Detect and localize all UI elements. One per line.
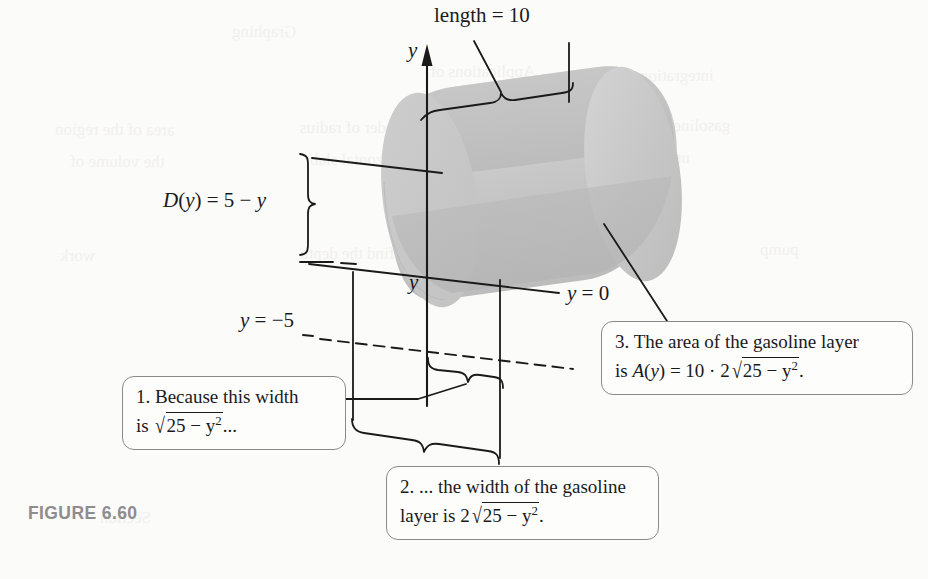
callout-1[interactable]: 1. Because this width is √25 − y2...: [122, 376, 346, 450]
y-axis-label-text: y: [408, 38, 417, 62]
callout-3-exponent: 2: [791, 358, 797, 373]
y-zero-rhs: = 0: [582, 281, 610, 305]
callout-3-line2-lead-wrap: is A(y) = 10 · 2: [615, 360, 730, 381]
slab-y-label: y: [409, 272, 418, 293]
callout-3-radicand-text: 25 − y: [743, 360, 792, 381]
y-minus-five-label-dashes: [303, 335, 313, 336]
length-label: length = 10: [434, 5, 530, 26]
y-axis-label: y: [408, 40, 417, 61]
callout-2-radicand-text: 25 − y: [483, 505, 532, 526]
y-axis-arrowhead: [422, 44, 433, 66]
depth-var: y: [185, 188, 194, 212]
callout-2[interactable]: 2. ... the width of the gasoline layer i…: [386, 466, 659, 540]
callout-3-radicand: 25 − y2: [742, 357, 799, 384]
callout-2-line-2: layer is 2√25 − y2.: [400, 500, 645, 530]
depth-tail: y: [257, 188, 266, 212]
callout-2-line1-text: ... the width of the gasoline: [419, 476, 626, 497]
depth-lhs: D: [163, 188, 178, 212]
callout-1-radicand: 25 − y2: [166, 412, 223, 439]
y-minus-five-label: y = −5: [240, 310, 294, 331]
callout-3-line1-text: The area of the gasoline layer: [634, 331, 859, 352]
callout-3-radical: √25 − y2: [730, 355, 799, 385]
figure-caption: FIGURE 6.60: [28, 503, 137, 524]
callout-1-radical: √25 − y2: [153, 410, 222, 440]
callout-1-line2-lead: is: [136, 415, 149, 436]
callout-1-tail: ...: [223, 415, 237, 436]
figure-6-60: GraphingApplications ofintegrationarea o…: [0, 0, 928, 579]
callout-2-line2-lead: layer is 2: [400, 505, 470, 526]
y-minus-five-dashed-line: [320, 339, 573, 369]
callout-1-exponent: 2: [215, 413, 221, 428]
depth-brace: [300, 154, 315, 255]
length-label-text: length = 10: [434, 3, 530, 27]
callout-1-radicand-text: 25 − y: [167, 415, 216, 436]
callout-1-leader: [337, 384, 466, 399]
callout-1-number: 1.: [136, 386, 150, 407]
depth-function-text: D(y) = 5 − y: [163, 188, 266, 212]
sqrt-icon: √: [156, 411, 166, 441]
sqrt-icon: √: [732, 356, 742, 386]
callout-1-line1-text: Because this width: [155, 386, 299, 407]
callout-2-radicand: 25 − y2: [482, 502, 539, 529]
callout-3-line-2: is A(y) = 10 · 2√25 − y2.: [615, 355, 899, 385]
y-zero-label: y = 0: [567, 283, 609, 304]
depth-rhs: = 5 −: [207, 188, 252, 212]
y-minus-five-rhs: = −5: [255, 308, 294, 332]
y-minus-five-var: y: [240, 308, 249, 332]
callout-3-line-1: 3. The area of the gasoline layer: [615, 329, 899, 355]
sqrt-icon: √: [472, 501, 482, 531]
callout-2-tail: .: [539, 505, 544, 526]
y-zero-var: y: [567, 281, 576, 305]
full-width-brace: [352, 419, 499, 464]
callout-3-number: 3.: [615, 331, 629, 352]
callout-2-line-1: 2. ... the width of the gasoline: [400, 474, 645, 500]
callout-3[interactable]: 3. The area of the gasoline layer is A(y…: [601, 321, 913, 395]
callout-1-line-2: is √25 − y2...: [136, 410, 332, 440]
callout-2-exponent: 2: [531, 503, 537, 518]
callout-1-line-1: 1. Because this width: [136, 384, 332, 410]
callout-3-tail: .: [799, 360, 804, 381]
callout-2-radical: √25 − y2: [470, 500, 539, 530]
depth-function-label: D(y) = 5 − y: [163, 190, 266, 211]
slab-y-text: y: [409, 270, 418, 294]
callout-2-number: 2.: [400, 476, 414, 497]
